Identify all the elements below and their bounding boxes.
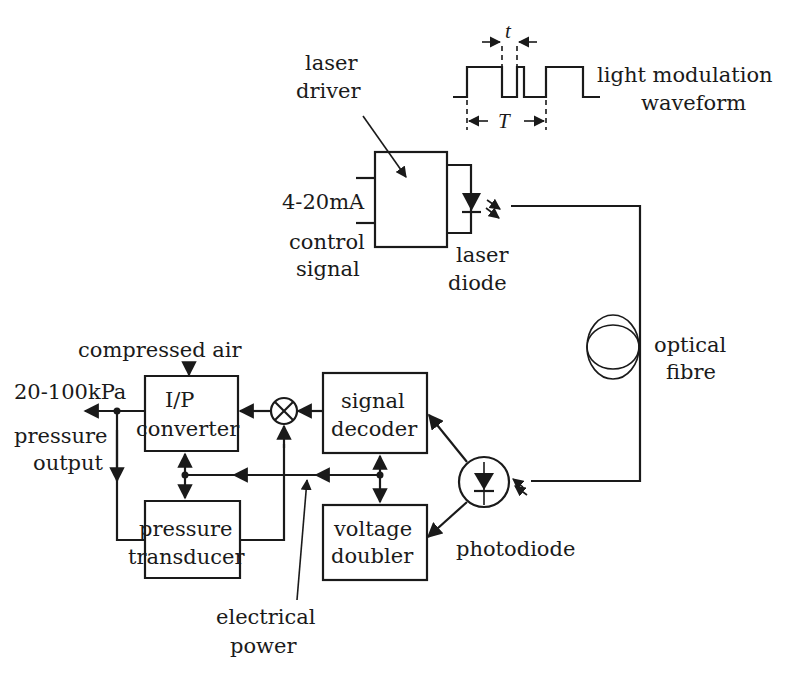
electrical-power-label-line2: power — [230, 634, 297, 658]
multiplier-junction — [240, 398, 323, 540]
laser-driver-label-line1: laser — [305, 51, 358, 75]
pressure-transducer-label-line2: transducer — [128, 545, 245, 569]
fibre-coil-inner — [587, 325, 639, 369]
ip-converter-label-line2: converter — [136, 417, 240, 441]
output-pressure-range: 20-100kPa — [14, 380, 126, 404]
waveform-label-line1: light modulation — [597, 63, 773, 87]
photodiode-label: photodiode — [456, 537, 575, 561]
voltage-doubler: voltage doubler — [323, 502, 467, 580]
compressed-air-label: compressed air — [78, 338, 243, 362]
laser-diode-label-line2: diode — [448, 271, 507, 295]
control-signal-label-line1: control — [289, 230, 365, 254]
optical-fibre-label-line2: fibre — [666, 360, 716, 384]
waveform-label-line2: waveform — [641, 91, 746, 115]
light-modulation-waveform: t T light modulation waveform — [453, 19, 773, 133]
signal-decoder: signal decoder — [323, 373, 467, 462]
laser-diode-label-line1: laser — [456, 243, 509, 267]
optical-fibre: optical fibre — [511, 206, 727, 481]
electrical-power-label-line1: electrical — [216, 605, 316, 629]
pressure-output-label-line1: pressure — [14, 424, 107, 448]
voltage-doubler-label-line2: doubler — [331, 544, 414, 568]
input-current-range: 4-20mA — [282, 190, 365, 214]
laser-driver-label-line2: driver — [296, 79, 361, 103]
laser-driver: laser driver 4-20mA control signal — [282, 51, 447, 281]
photodiode: photodiode — [456, 457, 575, 561]
fibre-optic-pressure-transmitter-diagram: t T light modulation waveform laser driv… — [0, 0, 809, 686]
short-interval-label: t — [505, 19, 512, 43]
signal-decoder-label-line1: signal — [341, 389, 405, 413]
laser-diode-icon — [462, 193, 481, 211]
pressure-transducer-label-line1: pressure — [139, 517, 232, 541]
pressure-transducer: pressure transducer — [128, 501, 245, 578]
laser-driver-block — [375, 152, 447, 247]
optical-fibre-label-line1: optical — [654, 333, 727, 357]
control-signal-label-line2: signal — [296, 257, 360, 281]
pressure-output: 20-100kPa pressure output — [14, 380, 145, 540]
voltage-doubler-label-line1: voltage — [333, 517, 412, 541]
ip-converter-label-line1: I/P — [165, 388, 195, 412]
signal-decoder-label-line2: decoder — [331, 417, 418, 441]
period-label: T — [498, 109, 511, 133]
signal-decoder-block — [323, 373, 427, 453]
pressure-output-label-line2: output — [33, 451, 104, 475]
laser-diode: laser diode — [447, 165, 509, 295]
